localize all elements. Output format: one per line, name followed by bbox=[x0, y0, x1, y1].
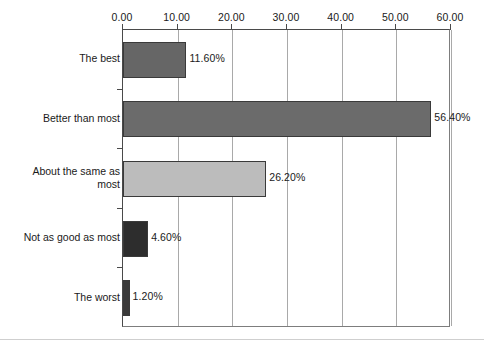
bar[interactable] bbox=[123, 280, 130, 316]
bar-value-label: 4.60% bbox=[151, 231, 181, 243]
category-label: The worst bbox=[5, 291, 120, 304]
clipped-title-artifact bbox=[0, 0, 484, 1]
category-label: Not as good as most bbox=[5, 231, 120, 244]
gridline bbox=[451, 30, 452, 326]
x-axis-tick-label: 60.00 bbox=[437, 11, 464, 23]
bar-value-label: 56.40% bbox=[434, 111, 470, 123]
bar[interactable] bbox=[123, 101, 431, 137]
category-label: The best bbox=[5, 52, 120, 65]
x-axis-tick-label: 20.00 bbox=[218, 11, 245, 23]
gridline bbox=[396, 30, 397, 326]
category-label: Better than most bbox=[5, 112, 120, 125]
x-axis-tick-label: 30.00 bbox=[273, 11, 300, 23]
bottom-divider bbox=[0, 339, 484, 340]
bar-chart: 0.0010.0020.0030.0040.0050.0060.00 The b… bbox=[0, 0, 484, 346]
x-axis-tick-label: 0.00 bbox=[112, 11, 133, 23]
bar-value-label: 11.60% bbox=[189, 52, 224, 64]
gridline bbox=[342, 30, 343, 326]
x-axis-tick-label: 50.00 bbox=[382, 11, 409, 23]
bar-value-label: 1.20% bbox=[133, 290, 163, 302]
bar[interactable] bbox=[123, 42, 186, 78]
bar[interactable] bbox=[123, 221, 148, 257]
x-axis-tick-label: 40.00 bbox=[327, 11, 354, 23]
category-label: About the same as most bbox=[5, 165, 120, 191]
bar-value-label: 26.20% bbox=[269, 171, 305, 183]
x-axis-tick-label: 10.00 bbox=[163, 11, 190, 23]
bar[interactable] bbox=[123, 161, 266, 197]
